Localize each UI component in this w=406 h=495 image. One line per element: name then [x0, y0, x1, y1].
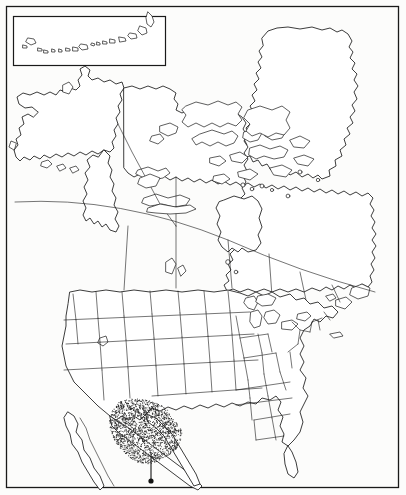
lake-michigan	[250, 310, 262, 328]
region-united-states	[62, 290, 343, 478]
inset-frame	[14, 17, 166, 66]
aleutian-islands-inset	[14, 12, 166, 66]
map-canvas	[0, 0, 406, 495]
baja-california-peninsula	[64, 412, 104, 490]
hudson-bay	[216, 196, 262, 252]
region-alaska	[9, 66, 124, 232]
north-america-map-figure	[0, 0, 406, 495]
